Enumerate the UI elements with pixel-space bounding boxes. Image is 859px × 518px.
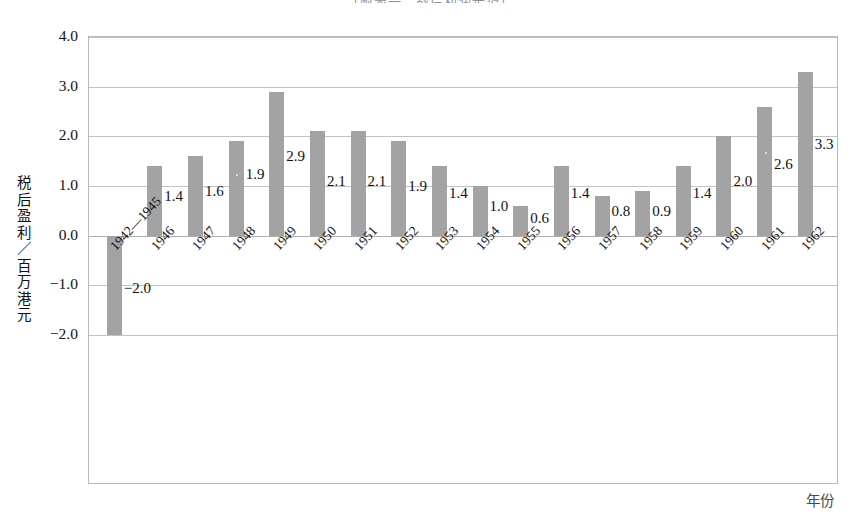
bar-value-label: 2.1	[368, 173, 387, 190]
bar-value-label: 2.9	[286, 148, 305, 165]
y-axis-title-char: ／	[14, 241, 34, 258]
y-axis-tick: 1.0	[59, 176, 78, 194]
bar-value-label: 1.4	[164, 187, 183, 204]
chart-title: （附表一：战后利润走势）	[0, 0, 859, 3]
y-axis-title-char: 元	[14, 307, 34, 324]
y-axis-tick: 3.0	[59, 77, 78, 95]
bar-value-label: 1.4	[571, 185, 590, 202]
y-axis-title-char: 盈	[14, 208, 34, 225]
bar[interactable]	[676, 166, 691, 236]
bar-value-label: 0.8	[612, 202, 631, 219]
bar-value-label: 2.1	[327, 173, 346, 190]
chart-figure: （附表一：战后利润走势） 4.03.02.01.00.0−1.0−2.0 税后盈…	[0, 0, 859, 518]
y-axis-title-char: 后	[14, 192, 34, 209]
y-axis-title-char: 万	[14, 274, 34, 291]
x-axis-title: 年份	[806, 489, 834, 510]
bar[interactable]	[269, 92, 284, 236]
bar[interactable]	[310, 131, 325, 235]
plot-frame: −2.01.41.61.92.92.12.11.91.41.00.61.40.8…	[88, 36, 838, 484]
y-axis-tick: −1.0	[50, 275, 78, 293]
y-axis-title-char: 税	[14, 175, 34, 192]
y-axis-title-char: 利	[14, 225, 34, 242]
y-axis-tick: −2.0	[50, 325, 78, 343]
bar[interactable]	[798, 72, 813, 236]
gridline	[89, 285, 837, 286]
bar-value-label: 2.6	[774, 155, 793, 172]
bar-value-label: 1.4	[449, 185, 468, 202]
bar[interactable]	[432, 166, 447, 236]
y-axis-title: 税后盈利／百万港元	[14, 175, 34, 324]
bar-value-label: 1.0	[490, 197, 509, 214]
bar-value-label: 0.9	[652, 202, 671, 219]
bar[interactable]	[716, 136, 731, 235]
y-axis: 4.03.02.01.00.0−1.0−2.0	[0, 36, 84, 484]
y-axis-tick: 2.0	[59, 126, 78, 144]
y-axis-tick: 0.0	[59, 226, 78, 244]
gridline	[89, 37, 837, 38]
plot-area: −2.01.41.61.92.92.12.11.91.41.00.61.40.8…	[89, 37, 837, 335]
gridline	[89, 87, 837, 88]
bar[interactable]	[351, 131, 366, 235]
gridline	[89, 335, 837, 336]
bar-value-label: 2.0	[733, 173, 752, 190]
bar-value-label: 3.3	[815, 135, 834, 152]
bar[interactable]	[229, 141, 244, 235]
y-axis-title-char: 港	[14, 291, 34, 308]
bar-value-label: 1.6	[205, 182, 224, 199]
bar-value-label: 1.9	[408, 178, 427, 195]
bar[interactable]	[757, 107, 772, 236]
bar-value-label: 1.9	[246, 165, 265, 182]
y-axis-title-char: 百	[14, 258, 34, 275]
bar[interactable]	[188, 156, 203, 235]
bar[interactable]	[391, 141, 406, 235]
y-axis-tick: 4.0	[59, 27, 78, 45]
bar[interactable]	[554, 166, 569, 236]
bar-value-label: −2.0	[124, 279, 151, 296]
bar-value-label: 1.4	[693, 185, 712, 202]
